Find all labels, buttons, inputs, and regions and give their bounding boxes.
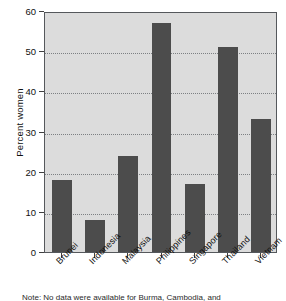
bar-series (45, 13, 276, 252)
bar (218, 47, 238, 252)
y-tick-label: 20 (25, 167, 36, 178)
y-tick-mark (39, 212, 44, 213)
bar (52, 180, 72, 252)
bar (152, 23, 172, 252)
y-tick-label: 10 (25, 207, 36, 218)
y-tick-mark (39, 51, 44, 52)
bar-chart-figure: Percent women 0102030405060 BruneiIndone… (0, 0, 286, 301)
y-axis-title: Percent women (14, 68, 25, 178)
y-tick-mark (39, 11, 44, 12)
y-tick-mark (39, 91, 44, 92)
plot-area (44, 12, 277, 253)
figure-note: Note: No data were available for Burma, … (22, 293, 284, 301)
bar (185, 184, 205, 252)
y-tick-label: 30 (25, 127, 36, 138)
y-tick-label: 0 (31, 247, 36, 258)
bar (251, 119, 271, 252)
y-tick-mark (39, 172, 44, 173)
y-tick-mark (39, 132, 44, 133)
y-tick-label: 40 (25, 86, 36, 97)
y-tick-label: 50 (25, 46, 36, 57)
y-tick-label: 60 (25, 6, 36, 17)
y-tick-mark (39, 252, 44, 253)
